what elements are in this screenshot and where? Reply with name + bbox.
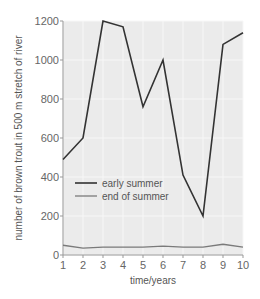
legend-label: end of summer: [102, 191, 169, 202]
line-chart: 02004006008001000120012345678910time/yea…: [0, 0, 260, 299]
x-tick-label: 2: [80, 259, 86, 271]
y-tick-label: 1000: [35, 54, 59, 66]
x-tick-label: 9: [220, 259, 226, 271]
y-axis-label: number of brown trout in 500 m stretch o…: [13, 35, 24, 241]
y-tick-label: 200: [41, 210, 59, 222]
x-tick-label: 8: [200, 259, 206, 271]
x-tick-label: 10: [237, 259, 249, 271]
x-tick-label: 6: [160, 259, 166, 271]
legend-label: early summer: [102, 178, 163, 189]
y-tick-label: 0: [53, 249, 59, 261]
x-axis-label: time/years: [130, 275, 176, 286]
y-tick-label: 800: [41, 93, 59, 105]
x-tick-label: 1: [60, 259, 66, 271]
y-tick-label: 600: [41, 132, 59, 144]
y-tick-label: 400: [41, 171, 59, 183]
x-tick-label: 3: [100, 259, 106, 271]
x-tick-label: 7: [180, 259, 186, 271]
y-tick-label: 1200: [35, 15, 59, 27]
x-tick-label: 4: [120, 259, 126, 271]
x-tick-label: 5: [140, 259, 146, 271]
